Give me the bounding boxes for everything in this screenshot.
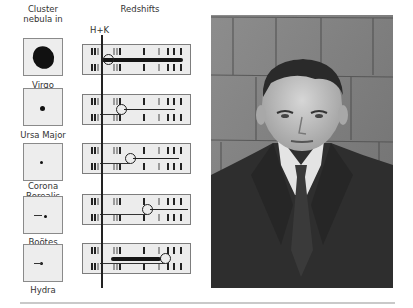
redshifts-column-header: Redshifts — [110, 4, 170, 14]
comparison-line — [113, 247, 115, 254]
comparison-line — [173, 163, 175, 170]
comparison-line — [97, 48, 99, 55]
comparison-line — [180, 64, 182, 71]
comparison-line — [180, 147, 182, 154]
comparison-line — [116, 147, 118, 154]
comparison-line — [91, 98, 93, 105]
comparison-line — [180, 247, 182, 254]
comparison-line — [143, 163, 145, 170]
comparison-line — [119, 247, 121, 254]
comparison-line — [167, 263, 169, 270]
comparison-line — [143, 64, 145, 71]
comparison-line — [91, 163, 93, 170]
comparison-line — [91, 114, 93, 121]
comparison-line — [158, 198, 160, 205]
comparison-line — [113, 48, 115, 55]
pointer-arrow — [34, 263, 42, 264]
comparison-line — [94, 48, 96, 55]
comparison-line — [116, 98, 118, 105]
cluster-thumbnail — [23, 196, 63, 234]
comparison-line — [143, 114, 145, 121]
comparison-line — [116, 198, 118, 205]
comparison-line — [167, 98, 169, 105]
comparison-line — [91, 214, 93, 221]
comparison-line — [91, 147, 93, 154]
comparison-line — [116, 247, 118, 254]
nebula-blob — [40, 106, 45, 111]
comparison-line — [158, 163, 160, 170]
comparison-line — [119, 48, 121, 55]
comparison-line — [173, 64, 175, 71]
pointer-arrow — [34, 215, 42, 216]
comparison-line — [119, 198, 121, 205]
hk-shift-circle — [103, 54, 114, 65]
comparison-line — [173, 114, 175, 121]
comparison-line — [167, 147, 169, 154]
comparison-line — [158, 64, 160, 71]
comparison-line — [91, 263, 93, 270]
comparison-line — [158, 147, 160, 154]
comparison-line — [97, 64, 99, 71]
comparison-line — [173, 247, 175, 254]
comparison-line — [94, 98, 96, 105]
hk-marker-label: H+K — [90, 25, 109, 35]
spectrum-plate — [82, 243, 191, 274]
comparison-line — [97, 163, 99, 170]
galaxy-spectrum-streak — [124, 109, 175, 110]
comparison-line — [119, 147, 121, 154]
comparison-line — [158, 114, 160, 121]
cluster-thumbnail — [23, 38, 63, 76]
comparison-line — [94, 214, 96, 221]
comparison-line — [173, 198, 175, 205]
comparison-line — [158, 247, 160, 254]
comparison-line — [158, 214, 160, 221]
comparison-line — [180, 214, 182, 221]
comparison-line — [180, 163, 182, 170]
comparison-line — [180, 263, 182, 270]
comparison-line — [113, 64, 115, 71]
comparison-line — [94, 163, 96, 170]
comparison-line — [97, 198, 99, 205]
shift-arrow — [100, 163, 130, 164]
comparison-line — [91, 64, 93, 71]
cluster-thumbnail — [23, 244, 63, 282]
comparison-line — [167, 214, 169, 221]
cluster-thumbnail — [23, 143, 63, 181]
hk-reference-line — [101, 35, 103, 288]
comparison-line — [173, 263, 175, 270]
comparison-line — [143, 247, 145, 254]
nebula-blob — [29, 43, 58, 73]
cluster-label: Ursa Major — [10, 130, 76, 140]
shift-arrow — [100, 263, 165, 264]
comparison-line — [143, 48, 145, 55]
portrait-illustration — [211, 15, 393, 288]
galaxy-spectrum-streak — [111, 257, 161, 261]
comparison-line — [167, 114, 169, 121]
comparison-line — [180, 48, 182, 55]
comparison-line — [94, 147, 96, 154]
comparison-line — [167, 198, 169, 205]
comparison-line — [113, 98, 115, 105]
comparison-line — [158, 98, 160, 105]
comparison-line — [91, 247, 93, 254]
comparison-line — [119, 64, 121, 71]
comparison-line — [167, 64, 169, 71]
galaxy-spectrum-streak — [150, 209, 188, 210]
comparison-line — [91, 198, 93, 205]
comparison-line — [94, 198, 96, 205]
comparison-line — [97, 247, 99, 254]
comparison-line — [173, 98, 175, 105]
cluster-thumbnail — [23, 88, 63, 126]
comparison-line — [97, 214, 99, 221]
comparison-line — [173, 214, 175, 221]
shift-arrow — [100, 214, 147, 215]
comparison-line — [180, 114, 182, 121]
spectrum-plate — [82, 143, 191, 174]
comparison-line — [116, 64, 118, 71]
comparison-line — [173, 48, 175, 55]
comparison-line — [97, 114, 99, 121]
comparison-line — [94, 64, 96, 71]
nebula-blob — [44, 215, 47, 218]
bottom-divider — [20, 302, 395, 304]
comparison-line — [143, 98, 145, 105]
